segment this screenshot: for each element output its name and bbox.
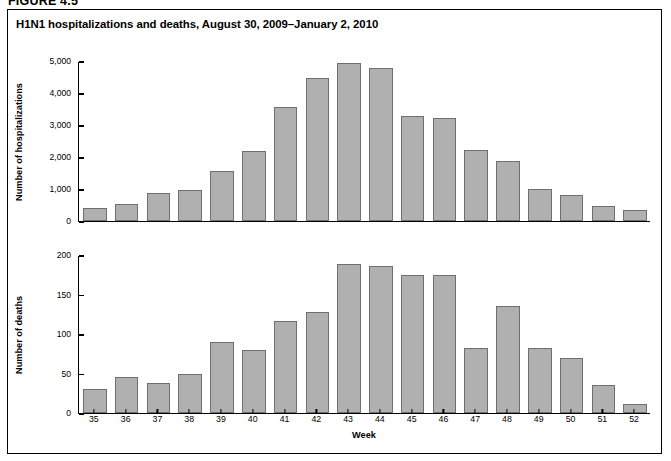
y-axis-title-deaths: Number of deaths — [14, 296, 24, 374]
bar-hospitalizations-week-39 — [210, 171, 234, 221]
bar-series-deaths — [79, 256, 650, 413]
y-tick-label: 150 — [57, 290, 71, 301]
x-tick-label-week-46: 46 — [439, 414, 449, 424]
bar-hospitalizations-week-38 — [178, 190, 202, 221]
bar-deaths-week-40 — [242, 350, 266, 413]
y-tick-mark — [79, 295, 84, 296]
bar-deaths-week-42 — [306, 312, 330, 413]
bar-hospitalizations-week-40 — [242, 151, 266, 221]
y-tick-label: 0 — [66, 408, 71, 419]
y-tick-label: 200 — [57, 250, 71, 261]
bar-hospitalizations-week-52 — [623, 210, 647, 221]
bar-hospitalizations-week-36 — [115, 204, 139, 221]
bar-series-hospitalizations — [79, 62, 650, 221]
y-tick-label: 100 — [57, 329, 71, 340]
bar-deaths-week-39 — [210, 342, 234, 413]
x-tick-label-week-40: 40 — [248, 414, 258, 424]
y-tick-label: 50 — [61, 369, 71, 380]
bar-deaths-week-44 — [369, 266, 393, 413]
bar-deaths-week-38 — [178, 374, 202, 413]
page-title: H1N1 hospitalizations and deaths, August… — [16, 18, 378, 30]
bar-deaths-week-35 — [83, 389, 107, 413]
bar-deaths-week-37 — [147, 383, 171, 413]
y-tick-mark — [79, 157, 84, 158]
x-tick-label-week-41: 41 — [280, 414, 290, 424]
y-tick-label: 1,000 — [49, 184, 71, 195]
bar-hospitalizations-week-47 — [464, 150, 488, 221]
bar-deaths-week-52 — [623, 404, 647, 413]
y-tick-mark — [79, 221, 84, 222]
bar-deaths-week-47 — [464, 348, 488, 413]
y-tick-mark — [79, 413, 84, 414]
bar-deaths-week-46 — [433, 275, 457, 413]
y-tick-mark — [79, 93, 84, 94]
bar-hospitalizations-week-46 — [433, 118, 457, 221]
chart-panel-deaths: Number of deaths 050100150200 — [0, 248, 671, 426]
x-tick-label-week-48: 48 — [502, 414, 512, 424]
bar-deaths-week-43 — [337, 264, 361, 413]
bar-hospitalizations-week-51 — [592, 206, 616, 221]
x-tick-label-week-43: 43 — [343, 414, 353, 424]
bar-deaths-week-50 — [560, 358, 584, 413]
y-tick-mark — [79, 255, 84, 256]
x-axis-title: Week — [78, 430, 650, 440]
y-tick-label: 3,000 — [49, 120, 71, 131]
y-tick-mark — [79, 374, 84, 375]
bar-hospitalizations-week-48 — [496, 161, 520, 221]
y-tick-label: 2,000 — [49, 152, 71, 163]
x-tick-label-week-47: 47 — [470, 414, 480, 424]
bar-deaths-week-48 — [496, 306, 520, 413]
y-tick-mark — [79, 189, 84, 190]
bar-hospitalizations-week-50 — [560, 195, 584, 221]
bar-hospitalizations-week-41 — [274, 107, 298, 221]
x-tick-label-week-37: 37 — [153, 414, 163, 424]
bar-hospitalizations-week-44 — [369, 68, 393, 221]
x-tick-label-week-52: 52 — [629, 414, 639, 424]
y-axis-title-hospitalizations: Number of hospitalizations — [14, 83, 24, 201]
bar-deaths-week-49 — [528, 348, 552, 413]
y-tick-label: 5,000 — [49, 56, 71, 67]
bar-deaths-week-45 — [401, 275, 425, 413]
bar-deaths-week-51 — [592, 385, 616, 413]
bar-hospitalizations-week-45 — [401, 116, 425, 221]
x-tick-label-week-36: 36 — [121, 414, 131, 424]
plot-area-hospitalizations: 01,0002,0003,0004,0005,000 — [78, 62, 650, 222]
bar-hospitalizations-week-35 — [83, 208, 107, 221]
bar-deaths-week-36 — [115, 377, 139, 413]
x-tick-label-week-51: 51 — [597, 414, 607, 424]
bar-deaths-week-41 — [274, 321, 298, 413]
chart-panel-hospitalizations: Number of hospitalizations 01,0002,0003,… — [0, 50, 671, 240]
bar-hospitalizations-week-42 — [306, 78, 330, 221]
y-tick-mark — [79, 334, 84, 335]
y-tick-label: 4,000 — [49, 88, 71, 99]
x-tick-label-week-35: 35 — [89, 414, 99, 424]
y-tick-label: 0 — [66, 216, 71, 227]
y-tick-mark — [79, 61, 84, 62]
plot-area-deaths: 050100150200 — [78, 256, 650, 414]
x-tick-label-week-45: 45 — [407, 414, 417, 424]
bar-hospitalizations-week-43 — [337, 63, 361, 221]
figure-root: FIGURE 4.5 H1N1 hospitalizations and dea… — [0, 0, 671, 461]
x-tick-label-week-49: 49 — [534, 414, 544, 424]
x-tick-label-week-50: 50 — [566, 414, 576, 424]
x-tick-label-week-38: 38 — [184, 414, 194, 424]
bar-hospitalizations-week-37 — [147, 193, 171, 221]
y-tick-mark — [79, 125, 84, 126]
x-tick-label-week-39: 39 — [216, 414, 226, 424]
x-tick-label-week-42: 42 — [311, 414, 321, 424]
x-tick-label-week-44: 44 — [375, 414, 385, 424]
bar-hospitalizations-week-49 — [528, 189, 552, 221]
figure-number-label: FIGURE 4.5 — [8, 0, 78, 8]
